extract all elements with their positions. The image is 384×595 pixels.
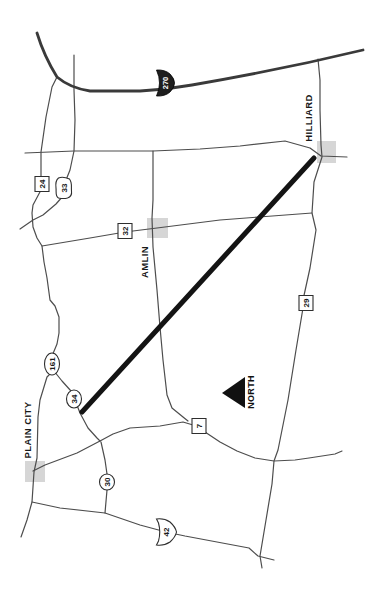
route-marker-24: 24 [35,177,49,192]
road-amlin-north-south [152,151,188,421]
road-plain-city-spur [33,441,100,471]
route-number-30: 30 [103,477,112,486]
route-number-42: 42 [162,527,171,536]
route-marker-7: 7 [192,419,206,434]
city-label-plain-city: PLAIN CITY [22,401,33,458]
road-map: HILLIARDAMLINPLAIN CITYNORTH270243332291… [0,0,384,595]
route-number-270: 270 [161,77,170,90]
route-marker-33: 33 [56,177,72,198]
route-number-7: 7 [195,423,204,428]
route-marker-32: 32 [118,224,132,239]
road-sr7 [100,422,342,461]
north-arrow-icon [222,377,245,408]
city-marker-plain-city [25,461,45,482]
route-marker-30: 30 [100,474,115,490]
road-us42 [32,502,274,560]
route-marker-42: 42 [157,519,177,545]
route-number-33: 33 [60,183,69,192]
roads-layer [20,55,347,568]
route-marker-270: 270 [157,70,175,96]
road-i270 [37,33,363,91]
road-sr24-sr161-north-south [32,77,59,356]
road-amlin-east-west [42,213,312,246]
route-number-161: 161 [48,357,57,371]
north-label: NORTH [246,375,256,409]
route-number-24: 24 [38,179,47,188]
route-number-32: 32 [121,226,130,235]
city-label-amlin: AMLIN [139,246,150,278]
city-label-hilliard: HILLIARD [303,94,314,142]
route-number-34: 34 [70,394,79,403]
route-marker-29: 29 [299,296,313,311]
route-marker-34: 34 [67,390,82,408]
labels-layer: HILLIARDAMLINPLAIN CITYNORTH270243332291… [22,70,314,545]
route-marker-161: 161 [45,353,60,375]
road-sr33 [20,55,75,229]
route-number-29: 29 [302,298,311,307]
highlighted-route [82,158,314,412]
map-canvas: HILLIARDAMLINPLAIN CITYNORTH270243332291… [0,0,384,595]
city-marker-hilliard [317,141,336,163]
